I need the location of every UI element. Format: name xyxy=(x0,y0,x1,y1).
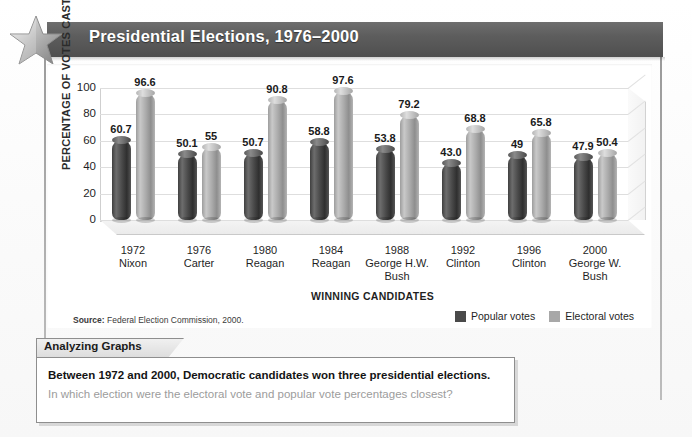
bar-cap xyxy=(310,138,329,146)
candidate-name: Clinton xyxy=(496,257,562,270)
candidate-name: Clinton xyxy=(430,257,496,270)
bar-value-label: 68.8 xyxy=(464,112,485,124)
x-axis-labels: 1972Nixon1976Carter1980Reagan1984Reagan1… xyxy=(100,244,645,288)
election-year: 1996 xyxy=(496,244,562,257)
bar-cap xyxy=(244,149,263,157)
bar-cap xyxy=(442,159,461,167)
bar-cap xyxy=(598,149,617,157)
bar-foot xyxy=(112,217,131,223)
candidate-name: Reagan xyxy=(232,257,298,270)
bar-foot xyxy=(268,217,287,223)
chart-legend: Popular votesElectoral votes xyxy=(455,310,634,322)
candidate-name: Nixon xyxy=(100,257,166,270)
source-text: Federal Election Commission, 2000. xyxy=(105,315,244,325)
bar-value-label: 47.9 xyxy=(572,140,593,152)
bar-cap xyxy=(400,111,419,119)
bar-foot xyxy=(178,217,197,223)
election-year: 1984 xyxy=(298,244,364,257)
x-axis-group-label: 1980Reagan xyxy=(232,244,298,270)
bar-electoral xyxy=(136,93,155,221)
bar-popular xyxy=(310,142,329,220)
candidate-name: George W. Bush xyxy=(562,257,628,283)
bar-popular xyxy=(508,155,527,220)
bar-series-container: 60.796.650.15550.790.858.897.653.879.243… xyxy=(100,88,645,220)
bar-cap xyxy=(268,96,287,104)
legend-swatch xyxy=(455,311,466,322)
bar-cap xyxy=(466,125,485,133)
bar-electoral xyxy=(334,91,353,220)
election-year: 1988 xyxy=(364,244,430,257)
textbook-page: Presidential Elections, 1976–2000 PERCEN… xyxy=(0,0,692,437)
bar-cap xyxy=(508,151,527,159)
y-tick-label: 40 xyxy=(62,160,96,172)
legend-label: Popular votes xyxy=(471,310,535,322)
candidate-name: George H.W. Bush xyxy=(364,257,430,283)
page-rule-left xyxy=(44,38,46,338)
bar-foot xyxy=(310,217,329,223)
bar-value-label: 43.0 xyxy=(440,146,461,158)
bar-cap xyxy=(334,87,353,95)
bar-cap xyxy=(574,153,593,161)
legend-item: Electoral votes xyxy=(549,310,634,322)
bar-cap xyxy=(532,129,551,137)
bar-foot xyxy=(574,217,593,223)
source-note: Source: Federal Election Commission, 200… xyxy=(73,315,244,325)
x-axis-title: WINNING CANDIDATES xyxy=(100,290,645,302)
election-year: 1980 xyxy=(232,244,298,257)
election-year: 1976 xyxy=(166,244,232,257)
candidate-name: Carter xyxy=(166,257,232,270)
bar-value-label: 97.6 xyxy=(332,74,353,86)
bar-foot xyxy=(376,217,395,223)
bar-foot xyxy=(244,217,263,223)
bar-electoral xyxy=(268,100,287,220)
source-label: Source: xyxy=(73,315,105,325)
election-year: 1992 xyxy=(430,244,496,257)
bar-foot xyxy=(334,217,353,223)
y-tick-label: 20 xyxy=(62,187,96,199)
bar-electoral xyxy=(532,133,551,220)
bar-popular xyxy=(244,153,263,220)
y-axis-ticks: 100806040200 xyxy=(56,88,96,234)
bar-foot xyxy=(136,217,155,223)
bar-electoral xyxy=(466,129,485,220)
bar-value-label: 49 xyxy=(511,138,523,150)
bar-value-label: 96.6 xyxy=(134,76,155,88)
bar-electoral xyxy=(202,147,221,220)
bar-foot xyxy=(508,217,527,223)
x-axis-group-label: 1992Clinton xyxy=(430,244,496,270)
bar-foot xyxy=(442,217,461,223)
bar-value-label: 50.4 xyxy=(596,136,617,148)
y-tick-label: 60 xyxy=(62,134,96,146)
legend-item: Popular votes xyxy=(455,310,535,322)
bar-foot xyxy=(400,217,419,223)
page-rule-right xyxy=(660,55,662,400)
bar-popular xyxy=(178,154,197,220)
bar-cap xyxy=(178,150,197,158)
analyzing-graphs-statement: Between 1972 and 2000, Democratic candid… xyxy=(48,369,490,381)
bar-popular xyxy=(112,140,131,220)
bar-value-label: 58.8 xyxy=(308,125,329,137)
analyzing-graphs-tab-label: Analyzing Graphs xyxy=(44,340,142,352)
bar-value-label: 55 xyxy=(205,130,217,142)
bar-cap xyxy=(112,136,131,144)
bar-value-label: 53.8 xyxy=(374,132,395,144)
bar-popular xyxy=(376,149,395,220)
x-axis-group-label: 1996Clinton xyxy=(496,244,562,270)
y-tick-label: 80 xyxy=(62,107,96,119)
bar-popular xyxy=(574,157,593,220)
bar-popular xyxy=(442,163,461,220)
legend-swatch xyxy=(549,311,560,322)
y-tick-label: 0 xyxy=(62,213,96,225)
bar-value-label: 65.8 xyxy=(530,116,551,128)
bar-value-label: 50.7 xyxy=(242,136,263,148)
analyzing-graphs-text: Between 1972 and 2000, Democratic candid… xyxy=(48,366,500,404)
bar-foot xyxy=(202,217,221,223)
star-icon xyxy=(5,10,67,72)
x-axis-group-label: 1972Nixon xyxy=(100,244,166,270)
bar-value-label: 90.8 xyxy=(266,83,287,95)
bar-cap xyxy=(376,145,395,153)
bar-foot xyxy=(598,217,617,223)
y-tick-label: 100 xyxy=(62,81,96,93)
legend-label: Electoral votes xyxy=(565,310,634,322)
bar-electoral xyxy=(598,153,617,220)
